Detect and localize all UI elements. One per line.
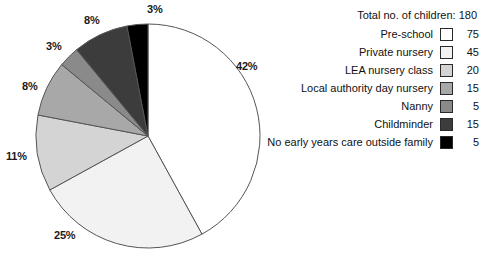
legend-row: Pre-school75 — [267, 26, 479, 42]
legend-item-label: Local authority day nursery — [301, 82, 440, 94]
legend-color-swatch — [440, 100, 453, 113]
legend-color-swatch — [440, 136, 453, 149]
pie-percent-label: 25% — [54, 229, 75, 241]
pie-percent-label: 8% — [84, 14, 100, 26]
pie-percent-label: 11% — [6, 150, 27, 162]
pie-percent-label: 3% — [46, 40, 62, 52]
legend-item-value: 20 — [453, 64, 479, 76]
pie-chart-figure: 42%25%11%8%3%8%3% Total no. of children:… — [0, 0, 485, 259]
legend-row: LEA nursery class20 — [267, 62, 479, 78]
pie-percent-label: 8% — [22, 80, 38, 92]
legend-row: Nanny5 — [267, 98, 479, 114]
legend-total-children: Total no. of children: 180 — [357, 9, 479, 21]
legend-item-label: No early years care outside family — [267, 136, 440, 148]
legend-row: Private nursery45 — [267, 44, 479, 60]
legend-row: No early years care outside family5 — [267, 134, 479, 150]
legend-item-value: 5 — [453, 100, 479, 112]
legend-item-value: 45 — [453, 46, 479, 58]
legend-item-label: Private nursery — [359, 46, 440, 58]
legend-item-label: Nanny — [401, 100, 440, 112]
legend-row-list: Pre-school75Private nursery45LEA nursery… — [267, 26, 479, 152]
chart-legend: Total no. of children: 180 Pre-school75P… — [214, 9, 479, 152]
legend-color-swatch — [440, 28, 453, 41]
legend-item-label: LEA nursery class — [345, 64, 440, 76]
legend-row: Childminder15 — [267, 116, 479, 132]
legend-item-value: 15 — [453, 118, 479, 130]
pie-percent-label: 3% — [147, 3, 163, 15]
legend-item-value: 5 — [453, 136, 479, 148]
legend-item-label: Pre-school — [380, 28, 440, 40]
legend-item-value: 15 — [453, 82, 479, 94]
legend-color-swatch — [440, 64, 453, 77]
legend-row: Local authority day nursery15 — [267, 80, 479, 96]
legend-item-label: Childminder — [374, 118, 440, 130]
legend-color-swatch — [440, 46, 453, 59]
legend-color-swatch — [440, 118, 453, 131]
legend-color-swatch — [440, 82, 453, 95]
legend-item-value: 75 — [453, 28, 479, 40]
